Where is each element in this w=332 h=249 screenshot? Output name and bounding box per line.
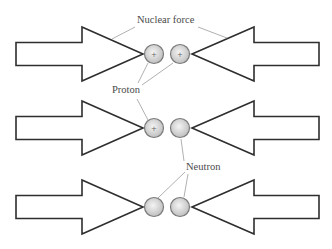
- force-arrow-right: [192, 180, 319, 234]
- neutron-particle: [145, 198, 164, 217]
- leader-nuclear-force-right: [198, 27, 227, 38]
- force-arrow-right: [192, 27, 319, 81]
- leader-neutron-row2: [181, 139, 184, 161]
- force-arrow-left: [16, 101, 143, 155]
- positive-charge-icon: +: [177, 51, 183, 59]
- leader-neutron-row3-right: [184, 174, 188, 197]
- proton-label: Proton: [112, 84, 141, 95]
- positive-charge-icon: +: [151, 125, 157, 133]
- leader-neutron-row3-left: [158, 172, 185, 198]
- leader-nuclear-force-left: [112, 27, 135, 39]
- arrow-rows: +++: [16, 27, 319, 234]
- force-arrow-left: [16, 180, 143, 234]
- neutron-particle: [171, 198, 190, 217]
- force-arrow-left: [16, 27, 143, 81]
- nuclear-force-diagram: +++ Nuclear force Proton Neutron: [0, 0, 332, 249]
- nuclear-force-label: Nuclear force: [137, 14, 195, 25]
- leader-proton-row1-left: [138, 63, 148, 83]
- positive-charge-icon: +: [151, 51, 157, 59]
- row-proton-proton: ++: [16, 27, 319, 81]
- row-neutron-neutron: [16, 180, 319, 234]
- neutron-particle: [171, 119, 190, 138]
- force-arrow-right: [192, 101, 319, 155]
- neutron-label: Neutron: [186, 161, 221, 172]
- row-proton-neutron: +: [16, 101, 319, 155]
- leader-proton-row2: [137, 99, 148, 120]
